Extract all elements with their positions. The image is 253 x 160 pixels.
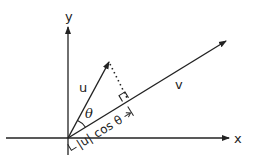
vector-v-arrow bbox=[68, 41, 226, 138]
cos-theta-label: cos θ bbox=[91, 112, 125, 140]
y-axis-label: y bbox=[65, 9, 73, 24]
abs-u-label: |u| bbox=[74, 131, 95, 151]
vector-projection-diagram: x y u θ v |u| cos θ bbox=[0, 0, 253, 160]
projection-length-annotation: |u| cos θ bbox=[67, 106, 135, 155]
angle-theta-label: θ bbox=[85, 106, 93, 121]
angle-theta-arc bbox=[77, 120, 85, 127]
projection-dotted-line bbox=[110, 64, 127, 98]
vector-v-label: v bbox=[175, 77, 183, 92]
x-axis-label: x bbox=[234, 131, 242, 146]
vector-u-label: u bbox=[79, 80, 87, 95]
